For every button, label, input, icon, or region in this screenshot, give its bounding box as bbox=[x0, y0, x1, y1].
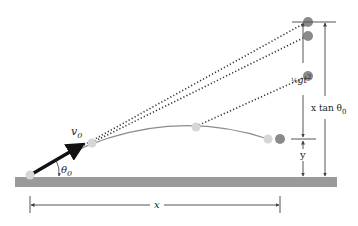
sight-line-3 bbox=[199, 78, 303, 125]
projectile-diagram: v0 θ0 ½gt2 x tan θ0 y x bbox=[0, 0, 358, 226]
projectile-ball-3 bbox=[264, 135, 273, 144]
target-ball-1 bbox=[303, 31, 313, 41]
half-gt2-label: ½gt2 bbox=[291, 73, 311, 85]
ground-bar bbox=[15, 177, 337, 187]
projectile-ball-1 bbox=[88, 139, 97, 148]
angle-label: θ0 bbox=[61, 164, 72, 178]
x-label: x bbox=[154, 199, 160, 210]
y-label: y bbox=[299, 149, 306, 160]
x-tan-theta-label: x tan θ0 bbox=[311, 103, 346, 116]
projectile-ball-2 bbox=[192, 123, 201, 132]
angle-arc bbox=[56, 160, 59, 176]
velocity-label: v0 bbox=[71, 125, 82, 140]
target-ball-3 bbox=[275, 134, 285, 144]
projectile-ball-0 bbox=[26, 171, 35, 180]
